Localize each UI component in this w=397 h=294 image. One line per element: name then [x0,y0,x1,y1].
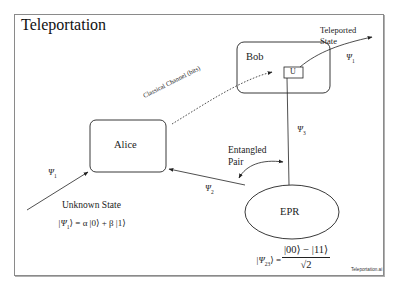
unitary-gate-label: U [290,67,296,76]
bell-state-lhs: |Ψ23⟩ = [256,255,281,267]
psi3-label: Ψ3 [297,124,306,136]
classical-channel-arrow [172,72,272,124]
alice-label: Alice [114,139,137,150]
teleportation-diagram [0,0,397,294]
bell-state-fraction: |00⟩ − |11⟩ √2 [282,244,330,271]
psi1-input-label: Ψ1 [48,167,57,179]
entangled-pair-arrow [239,161,283,178]
entangled-label-line2: Pair [228,157,243,167]
bob-label: Bob [246,51,264,62]
epr-label: EPR [280,206,299,217]
bell-state-denominator: √2 [282,258,330,271]
entangled-label-line1: Entangled [228,145,267,155]
unknown-state-equation: |Ψ1⟩ = α |0⟩ + β |1⟩ [58,218,126,230]
bob-box [237,42,330,93]
slide-title: Teleportation [21,16,106,34]
psi1-output-label: Ψ1 [346,52,355,64]
teleported-label-line2: State [320,36,337,46]
psi3-line [287,78,289,185]
teleported-label-line1: Teleported [320,25,356,35]
unknown-state-label: Unknown State [62,200,121,210]
psi2-label: Ψ2 [205,183,214,195]
footer-credit: Teleportation.ai [351,267,382,272]
bell-state-numerator: |00⟩ − |11⟩ [282,244,330,258]
